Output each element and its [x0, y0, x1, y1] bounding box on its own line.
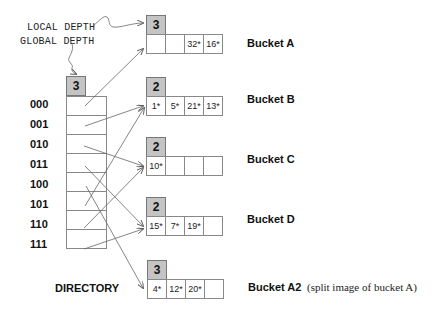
pointer-arrows	[0, 0, 435, 315]
